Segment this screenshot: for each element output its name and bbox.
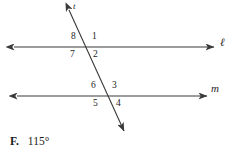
angle-label-7: 7	[70, 50, 75, 60]
angle-label-1: 1	[92, 32, 97, 42]
angle-label-6: 6	[91, 81, 96, 91]
line-label-t: t	[73, 2, 76, 11]
figure-canvas	[0, 0, 235, 155]
geometry-figure: ℓ m t 8 1 7 2 6 3 5 4	[0, 0, 235, 155]
answer-choice-f[interactable]: F. 115°	[10, 135, 49, 147]
angle-label-4: 4	[116, 99, 121, 109]
angle-label-3: 3	[112, 81, 117, 91]
line-label-m: m	[211, 83, 219, 94]
answer-choice-value: 115°	[28, 135, 49, 147]
transversal-line-t	[69, 10, 124, 131]
angle-label-2: 2	[93, 50, 98, 60]
angle-label-8: 8	[71, 32, 76, 42]
line-label-l: ℓ	[220, 37, 225, 48]
angle-label-5: 5	[93, 99, 98, 109]
answer-choice-letter: F.	[10, 135, 19, 147]
